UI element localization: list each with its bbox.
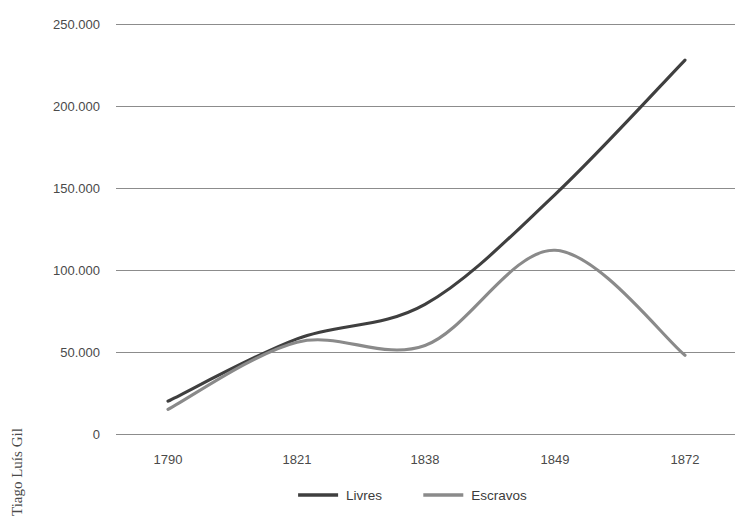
x-tick-label: 1838 — [411, 452, 440, 467]
x-axis-tick-labels: 17901821183818491872 — [154, 452, 700, 467]
series-lines — [168, 60, 685, 409]
credit-label: Tiago Luís Gil — [9, 428, 25, 516]
series-line-escravos — [168, 250, 685, 409]
legend-label-livres: Livres — [346, 488, 382, 503]
chart-figure: 250.000200.000150.000100.00050.0000 1790… — [0, 0, 756, 526]
y-axis-tick-labels: 250.000200.000150.000100.00050.0000 — [53, 17, 100, 442]
credit-watermark: Tiago Luís Gil — [9, 428, 25, 516]
chart-legend: LivresEscravos — [298, 488, 527, 503]
x-tick-label: 1849 — [541, 452, 570, 467]
series-line-livres — [168, 60, 685, 401]
y-tick-label: 250.000 — [53, 17, 100, 32]
y-tick-label: 0 — [93, 427, 100, 442]
line-chart: 250.000200.000150.000100.00050.0000 1790… — [0, 0, 756, 526]
gridlines — [116, 24, 735, 434]
y-tick-label: 100.000 — [53, 263, 100, 278]
y-tick-label: 200.000 — [53, 99, 100, 114]
x-tick-label: 1821 — [283, 452, 312, 467]
y-tick-label: 50.000 — [60, 345, 100, 360]
x-tick-label: 1790 — [154, 452, 183, 467]
legend-label-escravos: Escravos — [471, 488, 527, 503]
y-tick-label: 150.000 — [53, 181, 100, 196]
x-tick-label: 1872 — [671, 452, 700, 467]
